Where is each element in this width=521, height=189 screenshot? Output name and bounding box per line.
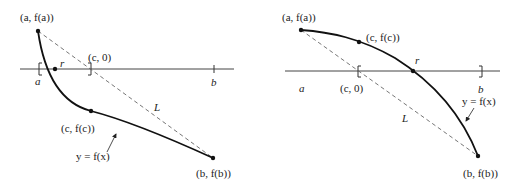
root-point xyxy=(53,67,57,71)
label-curve: y = f(x) xyxy=(462,95,496,108)
point-b xyxy=(211,156,215,160)
label-point-b: (b, f(b)) xyxy=(463,167,498,180)
label-secant: L xyxy=(401,112,408,124)
label-point-c: (c, f(c)) xyxy=(61,122,95,135)
label-secant: L xyxy=(153,101,160,113)
regula-falsi-diagram: (a, f(a)) (c, 0) r a b L (c, f(c)) y = f… xyxy=(0,0,521,189)
label-point-a: (a, f(a)) xyxy=(20,11,54,24)
label-tick-b: b xyxy=(211,76,217,88)
point-c xyxy=(357,40,361,44)
label-point-c0: (c, 0) xyxy=(88,51,112,64)
secant-line-L xyxy=(301,30,478,156)
label-tick-a: a xyxy=(35,75,41,87)
label-tick-a: a xyxy=(299,82,305,94)
left-panel: (a, f(a)) (c, 0) r a b L (c, f(c)) y = f… xyxy=(20,11,234,180)
label-root: r xyxy=(60,57,65,69)
label-curve: y = f(x) xyxy=(76,150,110,163)
label-root: r xyxy=(415,54,420,66)
label-point-a: (a, f(a)) xyxy=(282,11,316,24)
label-tick-b: b xyxy=(478,83,484,95)
right-panel: (a, f(a)) (c, f(c)) r a (c, 0) b y = f(x… xyxy=(282,11,500,180)
point-c xyxy=(89,109,93,113)
point-b xyxy=(476,154,480,158)
point-a xyxy=(36,29,40,33)
point-a xyxy=(299,28,303,32)
label-point-c0: (c, 0) xyxy=(340,82,364,95)
label-point-c: (c, f(c)) xyxy=(366,31,400,44)
label-point-b: (b, f(b)) xyxy=(196,167,231,180)
curve-label-arrow xyxy=(466,108,474,121)
root-point xyxy=(411,69,415,73)
